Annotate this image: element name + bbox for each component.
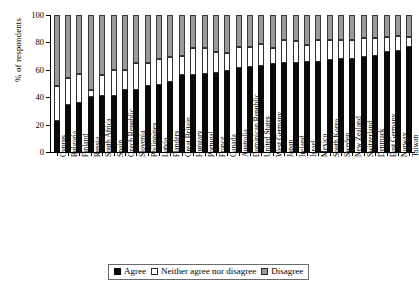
bar-segment-neither bbox=[338, 40, 344, 59]
black-square-swatch-icon bbox=[114, 268, 121, 275]
bar-segment-neither bbox=[76, 74, 82, 103]
x-tick-label: Philippines bbox=[151, 123, 159, 157]
bar bbox=[304, 15, 310, 152]
bar-segment-neither bbox=[406, 37, 412, 47]
y-tick-label: 60 bbox=[36, 66, 45, 75]
bar-segment-disagree bbox=[395, 15, 401, 36]
bar-segment-neither bbox=[304, 45, 310, 61]
x-tick-mark bbox=[341, 152, 342, 156]
bar-segment-disagree bbox=[167, 15, 173, 57]
legend-label: Disagree bbox=[271, 266, 303, 277]
x-tick-mark bbox=[148, 152, 149, 156]
bar-segment-neither bbox=[190, 48, 196, 75]
bar-segment-disagree bbox=[133, 15, 139, 63]
bar-segment-neither bbox=[224, 53, 230, 71]
bar-segment-neither bbox=[133, 63, 139, 90]
x-axis-labels: CyprusBulgariaFinlandRussiaSouth AfricaS… bbox=[51, 157, 415, 252]
legend-item[interactable]: Disagree bbox=[261, 266, 303, 277]
x-tick-mark bbox=[250, 152, 251, 156]
x-tick-label: West Germany bbox=[276, 112, 284, 157]
bar bbox=[224, 15, 230, 152]
x-tick-label: Latvia bbox=[162, 138, 170, 157]
bar-segment-disagree bbox=[327, 15, 333, 40]
x-tick-label: Denmark bbox=[378, 129, 386, 157]
x-tick-label: Slovenia bbox=[139, 130, 147, 157]
x-tick-mark bbox=[398, 152, 399, 156]
bar-segment-neither bbox=[349, 40, 355, 59]
x-tick-mark bbox=[125, 152, 126, 156]
bar-segment-neither bbox=[88, 90, 94, 97]
x-tick-label: Flanders bbox=[173, 131, 181, 157]
x-tick-mark bbox=[387, 152, 388, 156]
bar-segment-neither bbox=[213, 52, 219, 73]
x-tick-label: United States bbox=[264, 116, 272, 157]
x-tick-mark bbox=[205, 152, 206, 156]
bar-segment-disagree bbox=[122, 15, 128, 70]
y-tick-label: 40 bbox=[36, 93, 45, 102]
x-tick-mark bbox=[364, 152, 365, 156]
bar-segment-neither bbox=[327, 40, 333, 61]
x-tick-label: Norway bbox=[401, 133, 409, 157]
bar bbox=[406, 15, 412, 152]
legend-item[interactable]: Agree bbox=[114, 266, 146, 277]
stacked-bar-chart: % of respondents 020406080100 CyprusBulg… bbox=[0, 0, 419, 292]
gray-square-swatch-icon bbox=[261, 268, 268, 275]
bar-segment-disagree bbox=[179, 15, 185, 56]
bar-segment-disagree bbox=[270, 15, 276, 48]
bar-segment-disagree bbox=[349, 15, 355, 40]
bar-segment-neither bbox=[236, 47, 242, 69]
bar-segment-neither bbox=[281, 40, 287, 63]
x-tick-label: Great Britain bbox=[185, 117, 193, 157]
x-tick-label: Bulgaria bbox=[71, 131, 79, 157]
bar-segment-disagree bbox=[258, 15, 264, 44]
x-tick-label: Mexico bbox=[321, 134, 329, 157]
x-tick-mark bbox=[239, 152, 240, 156]
x-tick-label: Spain bbox=[117, 140, 125, 157]
bar-segment-disagree bbox=[315, 15, 321, 40]
bar-segment-neither bbox=[145, 63, 151, 86]
y-tick-label: 0 bbox=[40, 148, 44, 157]
bar-segment-neither bbox=[372, 38, 378, 56]
bar-segment-disagree bbox=[247, 15, 253, 47]
bar bbox=[54, 15, 60, 152]
bar-segment-neither bbox=[395, 36, 401, 51]
legend-item[interactable]: Neither agree nor disagree bbox=[151, 266, 256, 277]
x-tick-mark bbox=[182, 152, 183, 156]
x-tick-label: East Germany bbox=[390, 114, 398, 157]
x-tick-label: Japan bbox=[287, 140, 295, 157]
x-tick-mark bbox=[57, 152, 58, 156]
x-tick-label: Sweden bbox=[344, 133, 352, 157]
bar-segment-neither bbox=[65, 78, 71, 105]
bar-segment-neither bbox=[99, 75, 105, 96]
x-tick-label: Switzerland bbox=[367, 121, 375, 157]
x-tick-label: New Zealand bbox=[355, 116, 363, 157]
bar-segment-neither bbox=[293, 41, 299, 63]
bar-segment-disagree bbox=[338, 15, 344, 40]
x-tick-mark bbox=[91, 152, 92, 156]
bar-segment-disagree bbox=[99, 15, 105, 75]
x-tick-label: Australia bbox=[242, 129, 250, 157]
bar-segment-disagree bbox=[281, 15, 287, 40]
x-tick-mark bbox=[114, 152, 115, 156]
x-tick-label: Ireland bbox=[299, 135, 307, 157]
x-tick-label: Cyprus bbox=[60, 135, 68, 157]
x-tick-mark bbox=[68, 152, 69, 156]
bar-segment-neither bbox=[122, 70, 128, 91]
bar bbox=[88, 15, 94, 152]
y-tick-label: 100 bbox=[31, 11, 44, 20]
white-square-swatch-icon bbox=[151, 268, 158, 275]
x-tick-label: Russia bbox=[94, 137, 102, 157]
x-tick-label: Israel bbox=[310, 140, 318, 157]
x-tick-mark bbox=[296, 152, 297, 156]
x-tick-label: South Korea bbox=[333, 119, 341, 157]
bar-segment-disagree bbox=[88, 15, 94, 90]
x-tick-mark bbox=[216, 152, 217, 156]
bar-segment-neither bbox=[247, 47, 253, 68]
bar-segment-disagree bbox=[236, 15, 242, 47]
bar-segment-disagree bbox=[384, 15, 390, 37]
bar-segment-disagree bbox=[304, 15, 310, 45]
x-tick-label: South Africa bbox=[105, 118, 113, 157]
bar-segment-disagree bbox=[145, 15, 151, 63]
bar-segment-neither bbox=[361, 38, 367, 57]
bar-segment-neither bbox=[111, 70, 117, 96]
